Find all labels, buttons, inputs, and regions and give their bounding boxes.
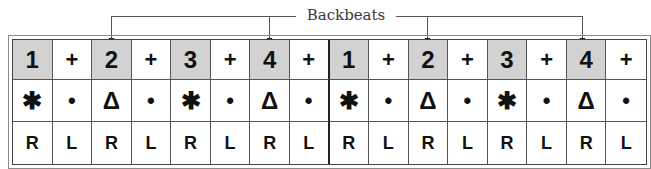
count-cell: 1 [13,40,53,80]
count-value: 2 [421,46,434,74]
count-cell: + [527,40,567,80]
sticking-cell: L [132,122,172,164]
instrument-cell: • [606,80,646,122]
count-cell: 4 [567,40,607,80]
instrument-cell: ✱ [488,80,528,122]
sticking-cell: L [53,122,93,164]
sticking-cell: R [250,122,290,164]
count-value: 4 [579,46,592,74]
count-cell: + [369,40,409,80]
sticking-cell: R [92,122,132,164]
count-value: + [145,47,158,73]
hi-hat-icon: • [305,88,313,114]
instrument-cell: • [290,80,330,122]
sticking-cell: R [488,122,528,164]
count-value: + [461,47,474,73]
count-value: 2 [105,46,118,74]
bass-drum-icon: ✱ [497,87,517,115]
sticking-value: L [462,133,473,154]
sticking-cell: L [527,122,567,164]
sticking-cell: L [290,122,330,164]
hi-hat-icon: • [147,88,155,114]
sticking-value: R [580,133,593,154]
count-cell: 2 [92,40,132,80]
instrument-cell: Δ [250,80,290,122]
count-value: + [540,47,553,73]
sticking-value: R [342,133,355,154]
count-cell: 1 [330,40,370,80]
count-cell: + [290,40,330,80]
bass-drum-icon: ✱ [339,87,359,115]
count-cell: 4 [250,40,290,80]
sticking-cell: R [13,122,53,164]
count-cell: + [53,40,93,80]
instrument-cell: • [527,80,567,122]
count-value: 4 [263,46,276,74]
sticking-value: R [501,133,514,154]
sticking-cell: L [448,122,488,164]
sticking-cell: L [211,122,251,164]
sticking-value: L [225,133,236,154]
instrument-cell: • [132,80,172,122]
rhythm-grid-frame: 1+2+3+4+1+2+3+4+✱•Δ•✱•Δ•✱•Δ•✱•Δ•RLRLRLRL… [8,35,651,169]
count-value: + [302,47,315,73]
sticking-value: L [621,133,632,154]
sticking-cell: L [606,122,646,164]
snare-icon: Δ [103,87,120,115]
sticking-value: R [421,133,434,154]
instrument-cell: ✱ [171,80,211,122]
sticking-value: L [541,133,552,154]
sticking-cell: R [171,122,211,164]
hi-hat-icon: • [622,88,630,114]
instrument-cell: • [448,80,488,122]
instrument-cell: Δ [409,80,449,122]
instrument-cell: • [369,80,409,122]
count-cell: + [211,40,251,80]
snare-icon: Δ [261,87,278,115]
sticking-cell: R [567,122,607,164]
instrument-cell: Δ [567,80,607,122]
count-cell: 3 [171,40,211,80]
instrument-cell: • [211,80,251,122]
instrument-cell: Δ [92,80,132,122]
snare-icon: Δ [578,87,595,115]
count-value: + [620,47,633,73]
sticking-cell: R [330,122,370,164]
sticking-value: L [145,133,156,154]
bass-drum-icon: ✱ [22,87,42,115]
count-value: 3 [500,46,513,74]
count-value: 1 [26,46,39,74]
sticking-value: L [383,133,394,154]
bass-drum-icon: ✱ [181,87,201,115]
hi-hat-icon: • [68,88,76,114]
count-cell: 2 [409,40,449,80]
rhythm-grid: 1+2+3+4+1+2+3+4+✱•Δ•✱•Δ•✱•Δ•✱•Δ•RLRLRLRL… [12,39,647,165]
count-value: + [65,47,78,73]
snare-icon: Δ [419,87,436,115]
sticking-value: R [26,133,39,154]
count-cell: + [606,40,646,80]
sticking-value: R [263,133,276,154]
count-value: + [382,47,395,73]
sticking-cell: L [369,122,409,164]
count-value: 3 [184,46,197,74]
count-cell: + [448,40,488,80]
backbeats-label: Backbeats [296,5,396,25]
hi-hat-icon: • [464,88,472,114]
hi-hat-icon: • [226,88,234,114]
count-value: 1 [342,46,355,74]
count-value: + [224,47,237,73]
instrument-cell: ✱ [13,80,53,122]
sticking-value: L [66,133,77,154]
count-cell: + [132,40,172,80]
sticking-cell: R [409,122,449,164]
hi-hat-icon: • [384,88,392,114]
instrument-cell: ✱ [330,80,370,122]
count-cell: 3 [488,40,528,80]
instrument-cell: • [53,80,93,122]
sticking-value: L [303,133,314,154]
hi-hat-icon: • [543,88,551,114]
sticking-value: R [105,133,118,154]
sticking-value: R [184,133,197,154]
